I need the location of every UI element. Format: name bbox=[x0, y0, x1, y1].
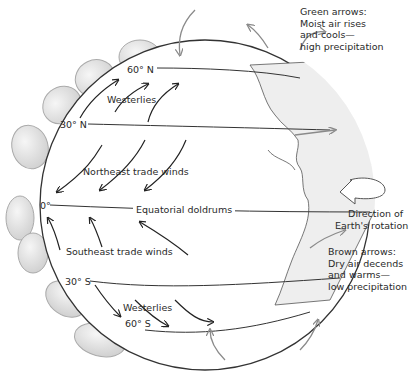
brown-arrows-note: Brown arrows: Dry air decends and warms—… bbox=[328, 246, 407, 292]
westerlies-south-label: Westerlies bbox=[123, 302, 172, 313]
ne-trades-label: Northeast trade winds bbox=[83, 166, 189, 177]
note-line: Brown arrows: bbox=[328, 246, 407, 258]
lat-30n-label: 30° N bbox=[60, 119, 87, 130]
se-trades-label: Southeast trade winds bbox=[66, 246, 173, 257]
lat-60s-label: 60° S bbox=[125, 318, 151, 329]
note-line: Earth's rotation bbox=[335, 220, 408, 232]
note-line: and warms— bbox=[328, 269, 407, 281]
note-line: and cools— bbox=[300, 29, 384, 41]
westerlies-north-label: Westerlies bbox=[107, 94, 156, 105]
lat-0-label: 0° bbox=[40, 200, 51, 211]
diagram-canvas bbox=[0, 0, 409, 373]
rotation-note: Direction of Earth's rotation bbox=[343, 208, 408, 231]
note-line: Direction of bbox=[343, 208, 408, 220]
doldrums-label: Equatorial doldrums bbox=[133, 204, 235, 215]
lat-60n-label: 60° N bbox=[127, 64, 154, 75]
lat-30s-label: 30° S bbox=[65, 276, 91, 287]
circulation-diagram: 60° N 30° N 0° 30° S 60° S Westerlies No… bbox=[0, 0, 409, 373]
note-line: Dry air decends bbox=[328, 258, 407, 270]
note-line: low precipitation bbox=[328, 281, 407, 293]
green-arrows-note: Green arrows: Moist air rises and cools—… bbox=[300, 6, 384, 52]
note-line: Moist air rises bbox=[300, 18, 384, 30]
note-line: Green arrows: bbox=[300, 6, 384, 18]
note-line: high precipitation bbox=[300, 41, 384, 53]
